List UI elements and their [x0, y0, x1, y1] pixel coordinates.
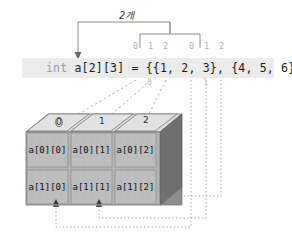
cube-cell-label-a01: a[0][1] — [72, 145, 111, 155]
row-index-1: 1 — [203, 78, 208, 87]
cube-cell-label-a10: a[1][0] — [28, 182, 67, 192]
code-keyword: int — [46, 61, 67, 75]
cube-top-number-0: 0 — [56, 117, 62, 127]
count-bracket — [78, 22, 170, 54]
count-label: 2개 — [119, 7, 134, 22]
cube-cell-label-a12: a[1][2] — [116, 182, 155, 192]
array-diagram: 2개 int a[2][3] = {{1, 2, 3}, {4, 5, 6}};… — [0, 0, 292, 250]
element-index-1-1: 1 — [204, 41, 209, 51]
element-index-0-1: 1 — [148, 41, 153, 51]
row-index-0: 0 — [147, 78, 152, 87]
cube-cell-label-a02: a[0][2] — [116, 145, 155, 155]
diagram-vector-layer — [0, 0, 292, 250]
code-rest: a[2][3] = {{1, 2, 3}, {4, 5, 6}}; — [67, 61, 292, 75]
element-index-0-0: 0 — [133, 41, 138, 51]
cube-cell-label-a11: a[1][1] — [72, 182, 111, 192]
element-index-1-2: 2 — [219, 41, 224, 51]
element-index-1-0: 0 — [189, 41, 194, 51]
cube-cell-label-a00: a[0][0] — [28, 145, 67, 155]
element-index-0-2: 2 — [163, 41, 168, 51]
cube-top-number-1: 1 — [99, 116, 105, 126]
code-line: int a[2][3] = {{1, 2, 3}, {4, 5, 6}}; — [46, 59, 292, 77]
cube-top-number-2: 2 — [143, 115, 149, 125]
